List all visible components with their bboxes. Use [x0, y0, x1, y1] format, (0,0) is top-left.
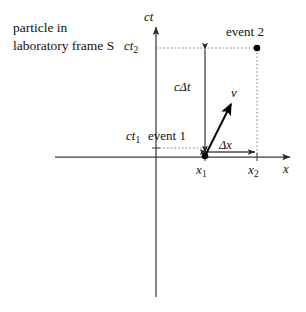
tick-label-x1: x1: [196, 162, 207, 180]
caption-line-2: laboratory frame S: [13, 37, 114, 55]
tick-label-ct2-sub: 2: [134, 45, 139, 55]
tick-label-ct1-sub: 1: [136, 135, 141, 145]
ct-axis-label: ct: [144, 9, 153, 24]
tick-label-ct2: ct2: [124, 38, 138, 56]
event-1-dot: [202, 153, 209, 160]
tick-label-x2-sub: 2: [254, 169, 259, 179]
tick-label-x1-sub: 1: [202, 169, 207, 179]
tick-label-ct2-base: ct: [124, 38, 133, 53]
event-2-label: event 2: [226, 24, 264, 39]
velocity-label: v: [231, 85, 237, 100]
caption-line-1: particle in: [13, 19, 114, 37]
tick-label-ct1: ct1: [126, 128, 140, 146]
event-1-label: event 1: [148, 128, 186, 143]
tick-label-x2-base: x: [248, 162, 254, 177]
spacetime-diagram-figure: particle in laboratory frame S ct x ct2 …: [0, 0, 306, 312]
delta-x-label: Δx: [219, 138, 232, 153]
tick-label-x2: x2: [248, 162, 259, 180]
event-2-dot: [254, 45, 261, 52]
tick-label-ct1-base: ct: [126, 128, 135, 143]
x-axis-label: x: [283, 161, 289, 176]
c-delta-t-label: cΔt: [174, 80, 190, 95]
figure-caption: particle in laboratory frame S: [13, 19, 114, 55]
tick-label-x1-base: x: [196, 162, 202, 177]
